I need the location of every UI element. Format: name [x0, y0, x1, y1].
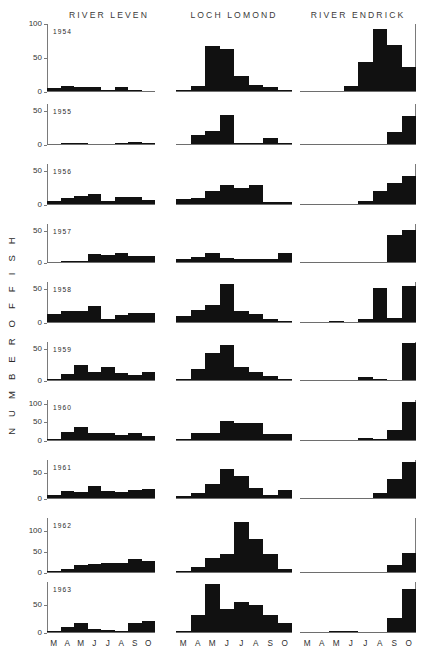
bar-series	[300, 164, 416, 204]
x-axis-month-labels: MAMJJASO	[300, 639, 416, 648]
bar	[278, 202, 293, 204]
bar	[249, 539, 264, 572]
histogram-panel	[176, 24, 292, 92]
bar	[263, 434, 278, 440]
histogram-panel	[300, 518, 416, 573]
bar	[249, 372, 264, 380]
bar-series	[176, 400, 292, 440]
bar	[249, 259, 264, 262]
bar	[88, 433, 102, 440]
y-tick-label: 0	[16, 437, 42, 445]
bar	[47, 88, 61, 91]
y-tick-label: 0	[16, 319, 42, 327]
bar	[191, 310, 206, 322]
bar	[47, 631, 61, 632]
bar	[128, 256, 142, 262]
bar	[74, 196, 88, 204]
bar-series	[300, 400, 416, 440]
year-label: 1958	[53, 286, 72, 293]
x-tick-label: M	[47, 639, 61, 648]
year-label: 1955	[53, 108, 72, 115]
x-axis-month-labels: MAMJJASO	[47, 639, 155, 648]
bar	[402, 402, 417, 440]
y-tick-label: 0	[16, 201, 42, 209]
histogram-panel	[300, 582, 416, 633]
histogram-panel	[300, 24, 416, 92]
histogram-panel	[176, 582, 292, 633]
bar	[101, 255, 115, 262]
x-axis-baseline	[47, 204, 155, 205]
bar	[263, 87, 278, 91]
bar	[88, 629, 102, 632]
bar	[128, 559, 142, 572]
bar	[205, 131, 220, 144]
x-tick-label: O	[402, 639, 417, 648]
bar	[88, 372, 102, 380]
y-tick-label: 50	[16, 54, 42, 62]
bar	[205, 191, 220, 204]
x-axis-baseline	[47, 632, 155, 633]
x-axis-baseline	[47, 498, 155, 499]
bar	[234, 143, 249, 144]
x-tick-label: M	[329, 639, 344, 648]
bar	[176, 631, 191, 632]
y-tick-mark	[44, 92, 47, 93]
x-tick-label: S	[263, 639, 278, 648]
bar	[220, 115, 235, 144]
bar	[278, 379, 293, 380]
bar	[387, 132, 402, 144]
bar	[263, 554, 278, 572]
bar	[61, 432, 75, 440]
bar	[220, 185, 235, 204]
histogram-panel	[300, 400, 416, 441]
bar	[220, 284, 235, 322]
bar	[387, 618, 402, 632]
bar	[74, 623, 88, 632]
bar-series	[300, 24, 416, 91]
bar	[101, 319, 115, 322]
x-tick-label: J	[358, 639, 373, 648]
y-tick-mark	[44, 323, 47, 324]
histogram-panel	[300, 224, 416, 263]
bar	[115, 563, 129, 572]
y-tick-mark	[44, 205, 47, 206]
bar	[88, 306, 102, 322]
x-tick-label: M	[205, 639, 220, 648]
bar	[220, 421, 235, 440]
y-tick-label: 50	[16, 167, 42, 175]
bar	[220, 554, 235, 572]
bar	[387, 235, 402, 262]
bar	[234, 76, 249, 91]
bar	[234, 188, 249, 204]
bar	[115, 492, 129, 498]
x-axis-month-labels: MAMJJASO	[176, 639, 292, 648]
bar	[115, 253, 129, 262]
bar	[61, 261, 75, 262]
histogram-panel	[176, 164, 292, 205]
bar	[387, 183, 402, 204]
x-tick-label: A	[115, 639, 129, 648]
x-tick-label: J	[88, 639, 102, 648]
bar	[249, 423, 264, 440]
bar	[387, 318, 402, 322]
bar	[402, 230, 417, 262]
y-tick-label: 50	[16, 601, 42, 609]
bar	[249, 143, 264, 144]
x-tick-label: S	[387, 639, 402, 648]
bar	[142, 372, 156, 380]
bar	[220, 609, 235, 632]
y-tick-label: 0	[16, 495, 42, 503]
bar	[249, 488, 264, 498]
bar	[142, 561, 156, 572]
bar	[402, 116, 417, 144]
bar	[249, 605, 264, 632]
histogram-panel	[300, 164, 416, 205]
year-label: 1960	[53, 404, 72, 411]
bar	[74, 311, 88, 322]
bar	[61, 198, 75, 204]
bar	[128, 197, 142, 204]
x-tick-label: O	[278, 639, 293, 648]
x-axis-baseline	[300, 91, 416, 92]
bar	[234, 602, 249, 632]
bar	[142, 436, 156, 440]
